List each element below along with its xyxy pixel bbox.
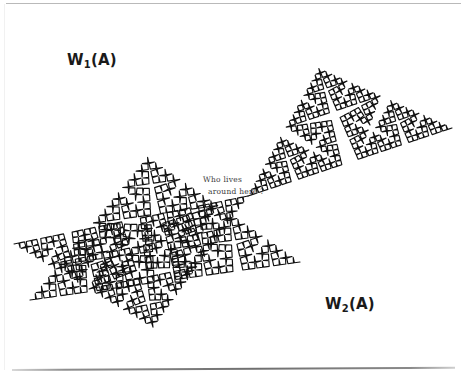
annotation-who-lives-around-here: Who lives around here ? bbox=[203, 174, 273, 197]
figure-page: W1(A) W2(A) Who lives around here ? bbox=[0, 0, 461, 380]
label-w1-suffix: (A) bbox=[91, 51, 117, 69]
label-w1-base: W bbox=[67, 51, 84, 69]
fractal-path bbox=[248, 69, 452, 196]
label-w2-suffix: (A) bbox=[349, 295, 375, 313]
annotation-line-2: around here ? bbox=[208, 186, 273, 198]
label-w2-of-a: W2(A) bbox=[325, 297, 375, 314]
label-w1-of-a: W1(A) bbox=[67, 53, 117, 70]
label-w2-subscript: 2 bbox=[342, 303, 349, 314]
annotation-line-1: Who lives bbox=[203, 175, 242, 184]
label-w1-subscript: 1 bbox=[84, 59, 91, 70]
label-w2-base: W bbox=[325, 295, 342, 313]
